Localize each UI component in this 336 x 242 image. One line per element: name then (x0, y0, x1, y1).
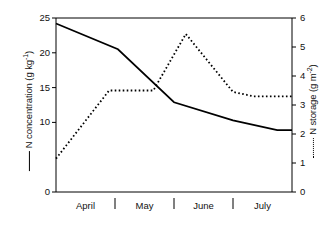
left-tick-label: 15 (16, 82, 50, 93)
series-line-n-storage (56, 34, 292, 159)
right-tick-label: 4 (300, 70, 320, 81)
right-tick-label: 2 (300, 128, 320, 139)
right-tick-label: 0 (300, 186, 320, 197)
left-tick-label: 0 (16, 186, 50, 197)
chart-figure: N concentration (g kg-1) N storage (g m-… (0, 0, 336, 242)
right-tick-label: 3 (300, 99, 320, 110)
x-axis-month-label: April (56, 200, 116, 211)
x-axis-month-label: May (115, 200, 175, 211)
left-tick-label: 20 (16, 47, 50, 58)
left-tick-label: 25 (16, 12, 50, 23)
right-tick-label: 6 (300, 12, 320, 23)
right-tick-label: 5 (300, 41, 320, 52)
left-tick-label: 10 (16, 116, 50, 127)
right-axis-ticks (292, 18, 296, 192)
x-axis-month-label: July (233, 200, 293, 211)
x-axis-month-label: June (174, 200, 234, 211)
left-axis-ticks (52, 18, 56, 192)
right-tick-label: 1 (300, 157, 320, 168)
